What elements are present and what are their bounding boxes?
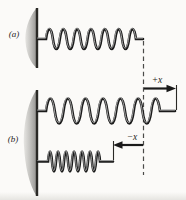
minus-x-label: −x [127,132,138,142]
diagram-canvas: +x −x (a) (b) [0,0,186,200]
panel-b-label: (b) [8,134,19,144]
scan-edge-shadow [0,192,186,200]
panel-a-label: (a) [9,29,20,39]
spring-diagram-figure: +x −x (a) (b) [0,0,186,200]
plus-x-label: +x [152,75,163,85]
